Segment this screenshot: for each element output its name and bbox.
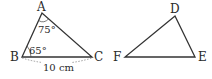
angle-a-value: 75° <box>38 24 56 35</box>
vertex-e-label: E <box>198 50 207 64</box>
triangle-def: D E F <box>113 2 207 64</box>
vertex-f-label: F <box>113 50 121 64</box>
geometry-diagram: A B C 75° 65° 10 cm D E F <box>0 0 212 79</box>
vertex-d-label: D <box>170 2 180 16</box>
vertex-a-label: A <box>36 0 46 14</box>
side-bc-length: 10 cm <box>43 62 75 73</box>
triangle-def-outline <box>125 16 195 57</box>
angle-a-arc <box>39 19 50 22</box>
triangle-abc: A B C 75° 65° 10 cm <box>10 0 103 73</box>
vertex-c-label: C <box>94 50 103 64</box>
vertex-b-label: B <box>10 50 19 64</box>
angle-b-value: 65° <box>29 45 47 56</box>
